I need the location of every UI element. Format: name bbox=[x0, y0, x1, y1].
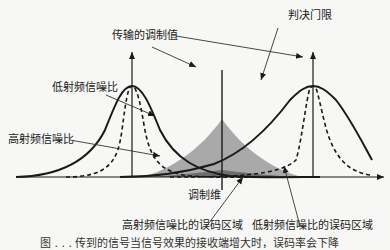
label-modulation-dimension: 调制维 bbox=[188, 190, 221, 202]
arrow-transmitted-left bbox=[152, 47, 196, 67]
arrow-high-snr bbox=[70, 140, 160, 156]
label-high-snr: 高射频信噪比 bbox=[8, 134, 74, 146]
figure-caption: 图 . . . 传到的信号当信号效果的接收端增大时，误码率会下降 bbox=[40, 238, 339, 250]
label-decision-threshold: 判决门限 bbox=[288, 10, 332, 22]
label-low-snr: 低射频信噪比 bbox=[52, 82, 118, 94]
label-low-snr-error-region: 低射频信噪比的误码区域 bbox=[252, 220, 373, 232]
arrow-threshold bbox=[261, 28, 278, 80]
arrow-transmitted-right bbox=[176, 36, 303, 57]
arrow-low-snr bbox=[106, 95, 155, 116]
label-transmitted-value: 传输的调制值 bbox=[112, 30, 178, 42]
label-high-snr-error-region: 高射频信噪比的误码区域 bbox=[122, 220, 243, 232]
left-wide-curve bbox=[16, 86, 320, 177]
